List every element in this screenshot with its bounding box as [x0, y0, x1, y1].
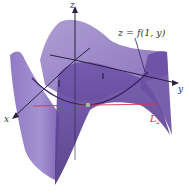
surface-diagram: z x y z = f(1, y) L2 [0, 0, 189, 194]
x-axis-label: x [4, 114, 9, 124]
z-axis-label: z [69, 0, 75, 10]
y-axis-label: y [177, 84, 184, 94]
curve-label: z = f(1, y) [117, 27, 166, 38]
tangent-point [86, 103, 91, 108]
